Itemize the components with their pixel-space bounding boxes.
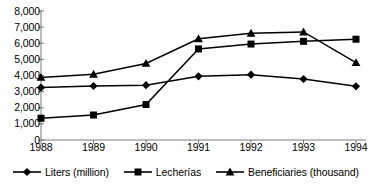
marker-diamond bbox=[247, 71, 255, 79]
line-chart: 01,0002,0003,0004,0005,0006,0007,0008,00… bbox=[0, 0, 371, 186]
marker-square bbox=[353, 36, 360, 43]
data-point bbox=[352, 82, 360, 90]
marker-square bbox=[134, 169, 141, 176]
marker-diamond bbox=[352, 82, 360, 90]
data-point bbox=[194, 72, 202, 80]
data-point bbox=[143, 101, 150, 108]
y-axis-label: 7,000 bbox=[4, 22, 40, 33]
marker-diamond bbox=[194, 72, 202, 80]
legend-item[interactable]: Liters (million) bbox=[12, 166, 109, 178]
x-axis-label: 1992 bbox=[228, 142, 274, 153]
legend-marker-triangle-icon bbox=[215, 166, 245, 178]
y-axis-label: 4,000 bbox=[4, 70, 40, 81]
data-point bbox=[195, 45, 202, 52]
marker-diamond bbox=[299, 75, 307, 83]
legend-item[interactable]: Lecherías bbox=[123, 166, 201, 178]
y-axis-label: 2,000 bbox=[4, 102, 40, 113]
data-point bbox=[89, 82, 97, 90]
x-axis-label: 1989 bbox=[71, 142, 117, 153]
plot-area: 01,0002,0003,0004,0005,0006,0007,0008,00… bbox=[0, 0, 371, 152]
x-axis-label: 1994 bbox=[333, 142, 371, 153]
y-axis-label: 5,000 bbox=[4, 54, 40, 65]
y-axis-label: 3,000 bbox=[4, 86, 40, 97]
data-point bbox=[352, 58, 361, 66]
marker-diamond bbox=[142, 81, 150, 89]
data-point bbox=[300, 38, 307, 45]
y-axis-label: 1,000 bbox=[4, 118, 40, 129]
x-axis-tick-labels: 1988198919901991199219931994 bbox=[0, 142, 371, 158]
y-axis-label: 8,000 bbox=[4, 6, 40, 17]
marker-diamond bbox=[23, 168, 31, 176]
marker-triangle bbox=[352, 58, 361, 66]
data-point bbox=[142, 81, 150, 89]
series-diamond bbox=[37, 71, 360, 92]
legend-label: Liters (million) bbox=[45, 166, 109, 178]
data-point bbox=[247, 71, 255, 79]
legend-label: Beneficiaries (thousand) bbox=[248, 166, 359, 178]
data-point bbox=[134, 169, 141, 176]
plot-svg bbox=[0, 0, 371, 152]
x-axis-label: 1988 bbox=[18, 142, 64, 153]
x-axis-label: 1990 bbox=[123, 142, 169, 153]
marker-square bbox=[90, 112, 97, 119]
x-axis-label: 1991 bbox=[176, 142, 222, 153]
data-point bbox=[90, 112, 97, 119]
data-point bbox=[248, 41, 255, 48]
chart-legend: Liters (million)LecheríasBeneficiaries (… bbox=[0, 161, 371, 183]
marker-square bbox=[248, 41, 255, 48]
data-point bbox=[23, 168, 31, 176]
marker-square bbox=[300, 38, 307, 45]
marker-square bbox=[195, 45, 202, 52]
legend-label: Lecherías bbox=[156, 166, 201, 178]
y-axis-label: 6,000 bbox=[4, 38, 40, 49]
y-axis-tick-labels: 01,0002,0003,0004,0005,0006,0007,0008,00… bbox=[0, 0, 40, 152]
data-point bbox=[353, 36, 360, 43]
x-axis-label: 1993 bbox=[281, 142, 327, 153]
legend-marker-diamond-icon bbox=[12, 166, 42, 178]
legend-item[interactable]: Beneficiaries (thousand) bbox=[215, 166, 359, 178]
marker-diamond bbox=[89, 82, 97, 90]
data-point bbox=[142, 59, 151, 67]
data-point bbox=[299, 75, 307, 83]
marker-triangle bbox=[142, 59, 151, 67]
marker-square bbox=[143, 101, 150, 108]
legend-marker-square-icon bbox=[123, 166, 153, 178]
